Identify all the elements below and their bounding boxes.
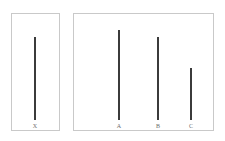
line-stroke-a — [118, 30, 120, 120]
line-stroke-c — [190, 68, 192, 120]
line-label-b: B — [156, 123, 160, 130]
line-label-x: X — [33, 123, 38, 130]
line-item-a[interactable]: A — [114, 14, 124, 130]
reference-panel: X — [11, 13, 60, 131]
line-label-a: A — [117, 123, 122, 130]
comparison-panel: A B C — [73, 13, 214, 131]
line-item-x[interactable]: X — [30, 14, 40, 130]
line-judgment-figure: X A B C — [0, 0, 225, 141]
line-stroke-b — [157, 37, 159, 120]
comparison-panel-inner: A B C — [74, 14, 213, 130]
reference-panel-inner: X — [12, 14, 59, 130]
line-label-c: C — [189, 123, 193, 130]
line-item-c[interactable]: C — [186, 14, 196, 130]
line-item-b[interactable]: B — [153, 14, 163, 130]
line-stroke-x — [34, 37, 36, 120]
